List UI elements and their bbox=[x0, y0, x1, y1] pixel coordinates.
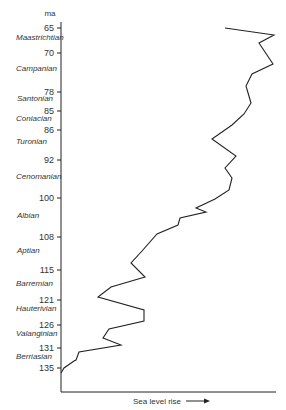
y-tick-label: 65 bbox=[44, 23, 54, 33]
y-tick-label: 70 bbox=[44, 48, 54, 58]
sea-level-curve bbox=[61, 28, 274, 373]
y-tick-label: 92 bbox=[44, 155, 54, 165]
y-tick-label: 86 bbox=[44, 125, 54, 135]
stage-label-cenomanian: Cenomanian bbox=[16, 172, 62, 181]
stage-label-campanian: Campanian bbox=[16, 64, 57, 73]
stage-label-albian: Albian bbox=[16, 211, 40, 220]
stage-label-turonian: Turonian bbox=[16, 137, 48, 146]
x-axis-label: Sea level rise bbox=[133, 397, 182, 406]
sea-level-chart: ma 657078858692100108115121126131135 Maa… bbox=[0, 0, 286, 410]
stage-label-santonian: Santonian bbox=[17, 94, 54, 103]
stage-label-valanginian: Valanginian bbox=[16, 329, 58, 338]
y-axis-unit-label: ma bbox=[44, 9, 56, 18]
stage-label-barremian: Barremian bbox=[16, 279, 53, 288]
y-axis-ticks: 657078858692100108115121126131135 bbox=[39, 23, 61, 373]
y-tick-label: 108 bbox=[39, 232, 54, 242]
y-tick-label: 115 bbox=[40, 265, 54, 275]
x-axis-label-group: Sea level rise bbox=[133, 397, 210, 406]
stage-label-hauterivian: Hauterivian bbox=[16, 304, 57, 313]
stage-label-coniacian: Coniacian bbox=[16, 114, 52, 123]
arrow-head-icon bbox=[204, 399, 210, 404]
stage-label-aptian: Aptian bbox=[16, 246, 40, 255]
stage-label-maastrichtian: Maastrichtian bbox=[16, 33, 64, 42]
y-tick-label: 135 bbox=[39, 363, 54, 373]
stage-label-berriasian: Berriasian bbox=[16, 352, 53, 361]
y-tick-label: 100 bbox=[39, 193, 54, 203]
